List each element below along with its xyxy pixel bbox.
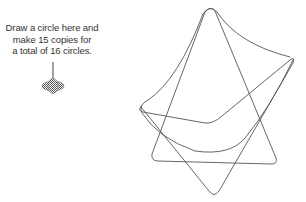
circle-stack-marker-icon xyxy=(42,79,64,94)
wire-frame xyxy=(139,8,293,194)
sling-outline xyxy=(141,8,293,152)
drawing-canvas xyxy=(0,0,306,202)
